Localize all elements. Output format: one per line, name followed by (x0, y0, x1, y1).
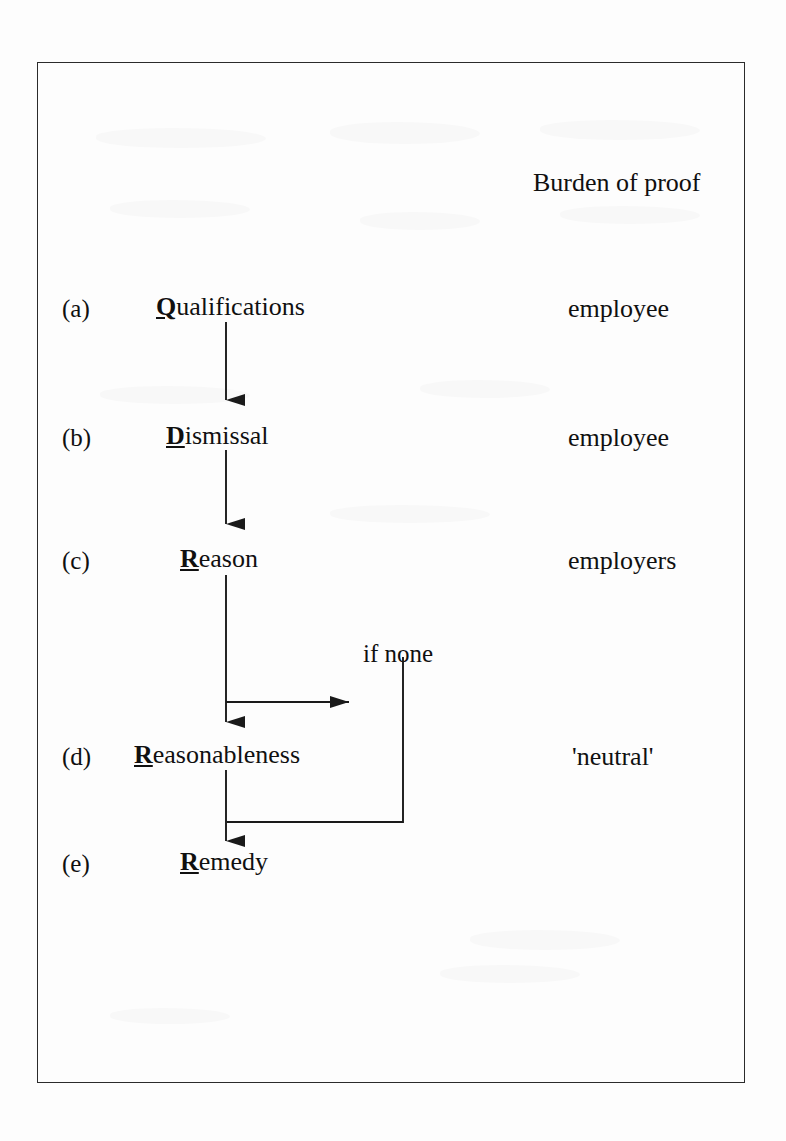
stage-initial-c: R (180, 544, 199, 573)
stage-label-d: (d) (62, 744, 91, 769)
stage-rest-a: ualifications (176, 292, 305, 321)
stage-label-b: (b) (62, 425, 91, 450)
page-root: Burden of proof (a) Qualifications emplo… (0, 0, 786, 1141)
stage-rest-d: easonableness (153, 740, 300, 769)
stage-name-remedy: Remedy (180, 849, 268, 875)
stage-name-qualifications: Qualifications (156, 294, 305, 320)
stage-initial-e: R (180, 847, 199, 876)
stage-label-c: (c) (62, 548, 90, 573)
stage-name-reason: Reason (180, 546, 258, 572)
branch-note-if-none: if none (363, 641, 433, 666)
stage-rest-e: emedy (199, 847, 268, 876)
stage-label-e: (e) (62, 851, 90, 876)
stage-label-a: (a) (62, 296, 90, 321)
burden-value-b: employee (568, 425, 669, 451)
stage-initial-a: Q (156, 292, 176, 321)
burden-of-proof-heading: Burden of proof (533, 170, 701, 196)
burden-value-d: 'neutral' (572, 744, 654, 770)
stage-name-reasonableness: Reasonableness (134, 742, 300, 768)
stage-initial-b: D (166, 421, 185, 450)
burden-value-a: employee (568, 296, 669, 322)
stage-rest-b: ismissal (185, 421, 269, 450)
burden-value-c: employers (568, 548, 676, 574)
stage-name-dismissal: Dismissal (166, 423, 269, 449)
stage-initial-d: R (134, 740, 153, 769)
stage-rest-c: eason (199, 544, 258, 573)
